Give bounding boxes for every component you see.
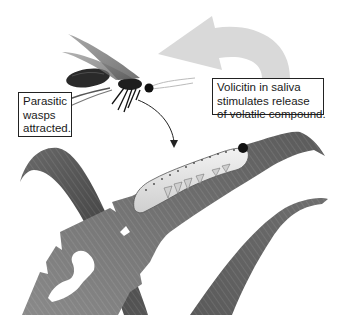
herbivory-signaling-figure: Parasitic wasps attracted. Volicitin in …	[0, 0, 341, 327]
label-line: wasps	[23, 109, 67, 123]
label-line: of volatile compound.	[217, 108, 319, 122]
volatile-release-arrow-icon	[158, 16, 290, 78]
label-line: Parasitic	[23, 95, 67, 109]
right-leaf-icon	[190, 198, 328, 315]
label-parasitic-wasps: Parasitic wasps attracted.	[18, 92, 72, 137]
label-line: attracted.	[23, 122, 67, 136]
label-line: Volicitin in saliva	[217, 81, 319, 95]
attraction-arrow-icon	[138, 100, 178, 148]
label-line: stimulates release	[217, 95, 319, 109]
label-volicitin: Volicitin in saliva stimulates release o…	[212, 78, 324, 115]
figure-illustration	[0, 0, 341, 327]
